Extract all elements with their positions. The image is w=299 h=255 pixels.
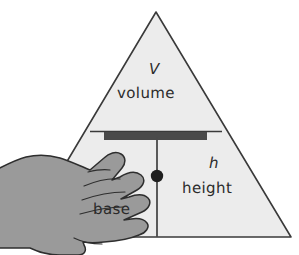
diagram-canvas: V volume h height base <box>0 0 299 255</box>
volume-symbol-label: V <box>149 60 160 78</box>
formula-triangle-figure <box>0 0 299 255</box>
volume-word-label: volume <box>117 84 175 102</box>
height-symbol-label: h <box>209 154 219 172</box>
division-bar <box>104 132 207 140</box>
multiplication-dot <box>151 170 163 182</box>
base-word-label: base <box>93 200 130 218</box>
height-word-label: height <box>182 179 232 197</box>
